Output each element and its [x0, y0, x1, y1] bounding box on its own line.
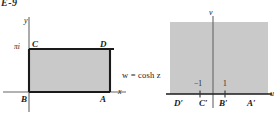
z-plane-tick-label-pi-i: πi: [14, 43, 20, 51]
w-plane-tick-label-minus-one: −1: [194, 80, 202, 88]
mapping-formula-label: w = cosh z: [122, 71, 161, 80]
w-plane-u-axis-label: u: [270, 90, 274, 98]
w-plane-image-label-b-prime: B′: [219, 99, 228, 108]
z-plane-vertex-label-d: D: [100, 40, 107, 49]
w-plane-tick-label-plus-one: 1: [223, 80, 227, 88]
w-plane-shaded-halfplane: [170, 22, 268, 94]
z-plane-vertex-label-b: B: [21, 95, 27, 104]
w-plane-v-axis-label: v: [209, 9, 213, 17]
w-plane-image-label-c-prime: C′: [199, 99, 208, 108]
w-plane-group: [166, 16, 272, 108]
w-plane-image-label-d-prime: D′: [174, 99, 183, 108]
z-plane-vertex-label-c: C: [32, 40, 38, 49]
z-plane-y-axis-label: y: [24, 17, 28, 25]
z-plane-shaded-rectangle: [29, 49, 110, 92]
conformal-mapping-figure: E-9: [0, 0, 278, 122]
z-plane-x-axis-label: x: [118, 88, 122, 96]
z-plane-vertex-label-a: A: [100, 95, 106, 104]
figure-canvas: [0, 0, 278, 122]
w-plane-image-label-a-prime: A′: [247, 99, 256, 108]
